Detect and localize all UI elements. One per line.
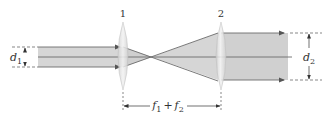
lens-2-label: 2 — [218, 8, 224, 19]
d1-label: d1 — [10, 51, 22, 66]
focal-separation-label: f1+f2 — [151, 99, 184, 114]
beam-expander-diagram: 1 2 d1 d2 f1+f2 — [0, 0, 330, 123]
d2-label: d2 — [303, 51, 315, 66]
lens-1-label: 1 — [120, 8, 126, 19]
output-beam — [221, 33, 288, 80]
lens-1 — [118, 22, 128, 112]
